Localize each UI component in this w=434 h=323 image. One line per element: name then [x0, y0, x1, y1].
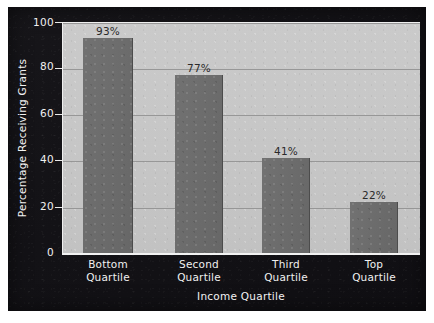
bar-bottom-quartile[interactable] [83, 38, 133, 253]
y-tick-mark-60 [55, 114, 62, 115]
x-category-second-quartile-line1: Second [179, 258, 219, 270]
y-tick-label-20: 20 [10, 200, 54, 212]
y-axis-title: Percentage Receiving Grants [16, 58, 28, 217]
x-category-second-quartile-line2: Quartile [159, 271, 239, 284]
x-category-third-quartile-line2: Quartile [246, 271, 326, 284]
x-category-third-quartile: Third Quartile [246, 258, 326, 283]
x-category-bottom-quartile-line1: Bottom [88, 258, 128, 270]
bar-value-bottom-quartile: 93% [83, 25, 133, 37]
y-tick-label-100: 100 [10, 16, 54, 28]
y-tick-label-60: 60 [10, 107, 54, 119]
y-tick-label-80: 80 [10, 60, 54, 72]
bar-chart-figure: Percentage Receiving Grants 100 80 60 40… [0, 0, 434, 323]
y-tick-mark-20 [55, 207, 62, 208]
x-category-top-quartile: Top Quartile [334, 258, 414, 283]
x-category-second-quartile: Second Quartile [159, 258, 239, 283]
bar-top-quartile[interactable] [350, 202, 398, 253]
x-axis-line [62, 253, 420, 255]
x-category-bottom-quartile: Bottom Quartile [68, 258, 148, 283]
bar-third-quartile[interactable] [262, 158, 310, 253]
bar-value-third-quartile: 41% [262, 145, 310, 157]
y-tick-mark-80 [55, 68, 62, 69]
y-tick-label-0: 0 [10, 246, 54, 258]
bar-second-quartile[interactable] [175, 75, 223, 253]
x-category-top-quartile-line2: Quartile [334, 271, 414, 284]
x-category-third-quartile-line1: Third [272, 258, 300, 270]
y-tick-mark-40 [55, 160, 62, 161]
y-tick-mark-100 [55, 22, 62, 23]
bar-value-top-quartile: 22% [350, 189, 398, 201]
x-category-top-quartile-line1: Top [365, 258, 383, 270]
x-axis-title: Income Quartile [62, 290, 420, 302]
y-tick-label-40: 40 [10, 153, 54, 165]
x-category-bottom-quartile-line2: Quartile [68, 271, 148, 284]
y-axis-title-container: Percentage Receiving Grants [14, 22, 30, 253]
gridline-100 [63, 23, 420, 24]
bar-value-second-quartile: 77% [175, 62, 223, 74]
